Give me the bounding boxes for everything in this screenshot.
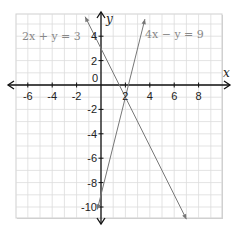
x-tick-label: 6 <box>171 90 177 102</box>
equation-label-1: 2x + y = 3 <box>22 30 81 43</box>
x-axis-label: x <box>223 66 230 80</box>
x-tick-label: -2 <box>72 90 82 102</box>
origin-label: 0 <box>92 72 98 84</box>
y-tick-label: -2 <box>87 103 97 115</box>
y-axis-label: y <box>105 12 113 26</box>
y-tick-label: -4 <box>87 128 97 140</box>
x-tick-label: 2 <box>122 90 128 102</box>
y-tick-label: 4 <box>91 30 97 42</box>
y-tick-label: -6 <box>87 152 97 164</box>
equation-label-2: 4x − y = 9 <box>145 28 204 41</box>
y-tick-label: -10 <box>81 201 97 213</box>
x-tick-label: -6 <box>23 90 33 102</box>
grid <box>16 14 223 219</box>
line-chart: x y 0 2x + y = 3 4x − y = 9 -6-4-2246842… <box>0 0 236 230</box>
paper <box>16 14 222 218</box>
y-tick-label: 2 <box>91 55 97 67</box>
x-tick-label: 8 <box>196 90 202 102</box>
x-tick-label: 4 <box>147 90 153 102</box>
x-tick-label: -4 <box>47 90 57 102</box>
y-tick-label: -8 <box>87 177 97 189</box>
